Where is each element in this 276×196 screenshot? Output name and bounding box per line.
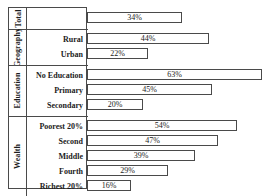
category-label-column: TotalGeographyRuralUrbanEducationNo Educ… — [8, 7, 87, 189]
category-label: Rural — [63, 35, 83, 45]
bar-value-label: 47% — [87, 135, 218, 146]
bar-value-label: 34% — [87, 12, 182, 23]
bar-value-label: 20% — [87, 99, 143, 110]
bar-value-label: 44% — [87, 33, 209, 44]
category-label: Richest 20% — [40, 182, 83, 192]
group-title-label: Geography — [13, 29, 22, 65]
bar-value-label: 16% — [87, 180, 131, 191]
category-label: Middle — [59, 152, 83, 162]
group-title-label: Total — [13, 10, 22, 28]
category-label: Fourth — [59, 167, 83, 177]
group-title-geography: Geography — [9, 29, 26, 65]
plot-area: 34%44%22%63%45%20%54%47%39%29%16% — [87, 7, 268, 189]
category-label: Second — [59, 137, 83, 147]
group-title-education: Education — [9, 65, 26, 116]
bar-value-label: 63% — [87, 69, 262, 80]
bar-value-label: 39% — [87, 150, 195, 161]
bar-value-label: 54% — [87, 120, 237, 131]
category-label: Urban — [61, 50, 83, 60]
group-title-label: Education — [13, 72, 22, 108]
category-label: Primary — [54, 86, 83, 96]
bar-chart: TotalGeographyRuralUrbanEducationNo Educ… — [0, 0, 276, 196]
chart-frame: TotalGeographyRuralUrbanEducationNo Educ… — [8, 7, 268, 189]
bar-value-label: 29% — [87, 165, 168, 176]
group-title-label: Wealth — [13, 144, 22, 169]
bar-value-label: 22% — [87, 48, 148, 59]
group-name-divider — [26, 29, 27, 65]
group-name-divider — [26, 116, 27, 196]
bar-value-label: 45% — [87, 84, 212, 95]
group-title-total: Total — [9, 8, 26, 29]
category-label: Secondary — [47, 101, 83, 111]
category-label: No Education — [36, 71, 83, 81]
group-name-divider — [26, 65, 27, 116]
category-label: Poorest 20% — [39, 122, 83, 132]
group-name-divider — [26, 8, 27, 29]
group-title-wealth: Wealth — [9, 116, 26, 196]
